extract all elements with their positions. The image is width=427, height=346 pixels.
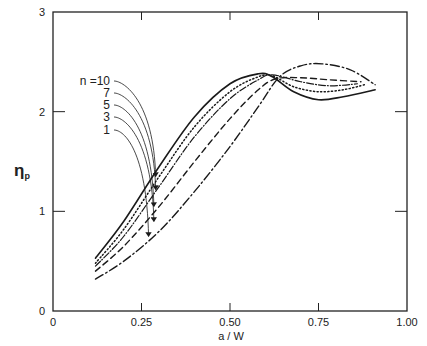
y-tick-label: 0: [39, 305, 45, 317]
legend-label-n1: 1: [103, 123, 110, 137]
y-tick-label: 2: [39, 106, 45, 118]
y-tick-label: 3: [39, 6, 45, 18]
legend-leader-arrow: [114, 130, 149, 236]
series-line-n10: [95, 73, 375, 258]
series-line-n1: [95, 64, 375, 280]
series-line-n7: [95, 75, 364, 264]
series-line-n5: [95, 75, 357, 266]
x-tick-label: 0: [50, 316, 56, 328]
x-tick-label: 0.25: [131, 316, 152, 328]
x-tick-label: 1.00: [396, 316, 417, 328]
series-line-n3: [95, 77, 361, 271]
legend-label-n3: 3: [103, 110, 110, 124]
plot-frame: [53, 12, 407, 311]
x-tick-label: 0.50: [219, 316, 240, 328]
y-axis-title: ηp: [14, 161, 30, 181]
x-tick-label: 0.75: [308, 316, 329, 328]
chart: 00.250.500.751.000123 n =107531 a / W ηp: [0, 0, 427, 346]
y-tick-label: 1: [39, 205, 45, 217]
x-axis-title: a / W: [218, 330, 244, 342]
legend-leader-arrow: [114, 105, 154, 206]
